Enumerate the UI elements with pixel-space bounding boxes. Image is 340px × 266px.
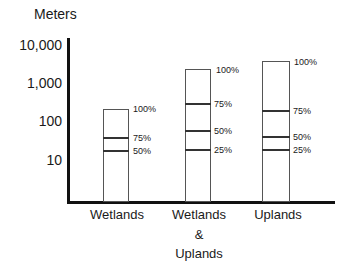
x-category-wetlands-uplands-line1: Wetlands — [158, 207, 240, 223]
percentile-label-25: 25% — [293, 145, 311, 155]
percentile-line-50 — [262, 136, 290, 138]
y-tick-10: 10 — [0, 152, 62, 168]
percentile-line-25 — [262, 149, 290, 151]
percentile-line-50 — [103, 150, 129, 152]
y-tick-10000: 10,000 — [0, 37, 62, 53]
y-axis-label: Meters — [34, 6, 77, 22]
bar-wetlands — [103, 109, 129, 202]
percentile-line-75 — [103, 137, 129, 139]
percentile-label-50: 50% — [214, 126, 232, 136]
percentile-label-75: 75% — [133, 133, 151, 143]
percentile-label-100: 100% — [216, 65, 239, 75]
bar-uplands — [262, 61, 290, 202]
percentile-label-100: 100% — [294, 57, 317, 67]
percentile-label-50: 50% — [293, 132, 311, 142]
percentile-label-100: 100% — [133, 104, 156, 114]
percentile-label-25: 25% — [214, 145, 232, 155]
x-category-wetlands-uplands-line3: Uplands — [158, 246, 240, 262]
x-category-wetlands-uplands-line2: & — [158, 227, 240, 243]
percentile-line-75 — [262, 110, 290, 112]
y-axis-line — [67, 38, 70, 204]
y-tick-1000: 1,000 — [0, 75, 62, 91]
x-category-wetlands: Wetlands — [76, 207, 158, 223]
y-tick-100: 100 — [0, 113, 62, 129]
bar-wetlands-uplands — [185, 69, 211, 202]
percentile-label-75: 75% — [293, 106, 311, 116]
percentile-line-50 — [185, 130, 211, 132]
percentile-line-25 — [185, 149, 211, 151]
percentile-label-75: 75% — [214, 99, 232, 109]
percentile-label-50: 50% — [133, 146, 151, 156]
x-category-uplands: Uplands — [240, 207, 316, 223]
percentile-line-75 — [185, 103, 211, 105]
